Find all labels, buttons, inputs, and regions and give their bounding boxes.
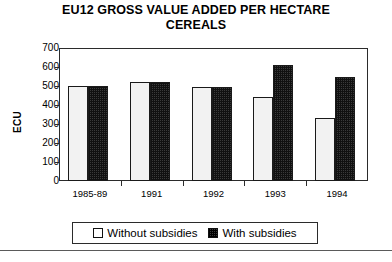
- legend-swatch-without-subsidies-icon: [93, 228, 103, 238]
- bar-group: [192, 48, 232, 181]
- x-tick-mark: [306, 181, 307, 186]
- bar-with-subsidies: [150, 82, 170, 181]
- x-tick-mark: [183, 181, 184, 186]
- legend-item-without-subsidies: Without subsidies: [93, 227, 197, 239]
- y-axis-ticks: 7006005004003002001000: [20, 0, 59, 262]
- footer-divider: [0, 250, 392, 251]
- chart-legend: Without subsidies With subsidies: [72, 222, 318, 244]
- y-tick-label: 100: [25, 157, 59, 167]
- y-tick-label: 500: [25, 81, 59, 91]
- bar-without-subsidies: [192, 87, 212, 181]
- bar-group: [315, 48, 355, 181]
- bar-without-subsidies: [68, 86, 88, 181]
- bar-with-subsidies: [88, 86, 108, 181]
- bar-with-subsidies: [273, 65, 293, 181]
- legend-item-with-subsidies: With subsidies: [208, 227, 296, 239]
- bar-group: [253, 48, 293, 181]
- chart-title-line-1: EU12 GROSS VALUE ADDED PER HECTARE: [62, 3, 330, 17]
- y-tick-label: 600: [25, 62, 59, 72]
- legend-swatch-with-subsidies-icon: [208, 228, 218, 238]
- y-tick-label: 200: [25, 138, 59, 148]
- x-tick-mark: [244, 181, 245, 186]
- y-tick-label: 700: [25, 43, 59, 53]
- bars-layer: [59, 48, 368, 181]
- x-tick-label: 1994: [327, 188, 348, 199]
- y-tick-label: 300: [25, 119, 59, 129]
- x-tick-label: 1992: [203, 188, 224, 199]
- x-tick-label: 1991: [141, 188, 162, 199]
- x-tick-mark: [121, 181, 122, 186]
- legend-label-with-subsidies: With subsidies: [222, 227, 296, 239]
- x-tick-label: 1993: [265, 188, 286, 199]
- bar-with-subsidies: [335, 77, 355, 182]
- bar-group: [68, 48, 108, 181]
- bar-group: [130, 48, 170, 181]
- y-tick-label: 400: [25, 100, 59, 110]
- bar-without-subsidies: [253, 97, 273, 181]
- bar-with-subsidies: [212, 87, 232, 181]
- bar-without-subsidies: [315, 118, 335, 181]
- y-tick-label: 0: [25, 176, 59, 186]
- legend-label-without-subsidies: Without subsidies: [107, 227, 197, 239]
- x-tick-label: 1985-89: [72, 188, 107, 199]
- bar-without-subsidies: [130, 82, 150, 181]
